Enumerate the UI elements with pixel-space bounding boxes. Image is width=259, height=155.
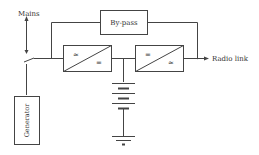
switch-blade xyxy=(24,58,34,62)
bypass-right-path xyxy=(148,23,198,59)
ups-block-diagram: Mains By-pass Radio link Generator ≈ = =… xyxy=(0,0,259,155)
generator-label: Generator xyxy=(23,103,31,138)
bypass-label: By-pass xyxy=(110,19,138,27)
inverter-ac-symbol: ≈ xyxy=(168,59,174,67)
rectifier-ac-symbol: ≈ xyxy=(73,51,79,59)
rectifier-diagonal xyxy=(64,46,112,72)
junction-dot xyxy=(197,58,199,60)
rectifier-dc-symbol: = xyxy=(96,59,102,67)
radio-link-label: Radio link xyxy=(212,55,249,63)
inverter-diagonal xyxy=(136,46,184,72)
radio-link-arrow-icon xyxy=(204,57,209,61)
mains-arrow-down-icon xyxy=(25,50,29,54)
mains-label: Mains xyxy=(18,10,40,18)
inverter-dc-symbol: = xyxy=(145,51,151,59)
